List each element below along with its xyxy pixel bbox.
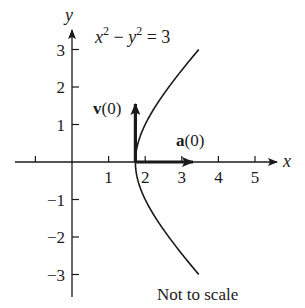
- x-axis-label: x: [282, 151, 291, 171]
- acceleration-label: a(0): [176, 131, 204, 150]
- eq-x: x: [94, 27, 103, 47]
- velocity-label: v(0): [93, 99, 121, 118]
- x-tick-label-4: 4: [214, 168, 223, 187]
- not-to-scale-note: Not to scale: [157, 285, 238, 304]
- acceleration-arg: (0): [185, 131, 205, 150]
- eq-rhs: = 3: [142, 27, 170, 47]
- x-tick-label-1: 1: [104, 168, 113, 187]
- y-tick-label-1: 1: [57, 116, 66, 135]
- equation-label: x2 − y2 = 3: [94, 24, 170, 47]
- y-tick-label-2: 2: [57, 78, 66, 97]
- y-tick-label-neg3: −3: [47, 266, 65, 285]
- y-tick-label-neg2: −2: [47, 228, 65, 247]
- eq-y: y: [126, 27, 136, 47]
- x-tick-label-5: 5: [251, 168, 260, 187]
- x-tick-label-3: 3: [178, 168, 187, 187]
- x-tick-label-2: 2: [141, 168, 150, 187]
- eq-minus: −: [109, 27, 128, 47]
- y-tick-label-3: 3: [57, 41, 66, 60]
- hyperbola-diagram: 1 2 3 4 5 3 2 1 −1 −2 −3 x y v(0) a(0) x…: [0, 0, 305, 308]
- velocity-arg: (0): [102, 99, 122, 118]
- y-axis-label: y: [63, 5, 73, 25]
- y-tick-label-neg1: −1: [47, 191, 65, 210]
